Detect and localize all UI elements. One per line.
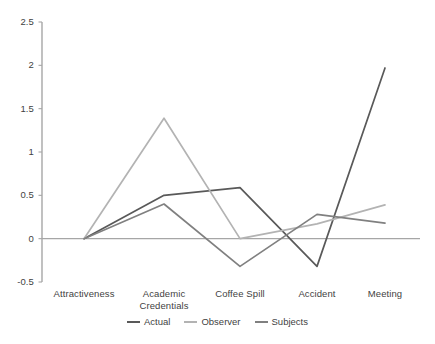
x-tick-label-4: Meeting [337,288,433,300]
y-tick-label-4: 1.5 [8,104,34,114]
legend-swatch-actual [127,321,140,323]
line-chart: -0.500.511.522.5 AttractivenessAcademic … [0,0,435,344]
legend-item-subjects[interactable]: Subjects [255,316,308,327]
series-line-actual [84,68,385,266]
y-tick-label-2: 0.5 [8,190,34,200]
series-line-observer [84,118,385,238]
legend-label: Actual [144,316,170,327]
y-tick-label-0: -0.5 [8,277,34,287]
legend-item-actual[interactable]: Actual [127,316,170,327]
y-tick-label-3: 1 [8,147,34,157]
axis-layer [39,22,421,282]
series-layer [84,68,385,266]
chart-legend: ActualObserverSubjects [0,316,435,327]
y-tick-label-5: 2 [8,60,34,70]
legend-swatch-observer [184,321,197,323]
legend-item-observer[interactable]: Observer [184,316,240,327]
y-tick-label-6: 2.5 [8,17,34,27]
y-tick-label-1: 0 [8,234,34,244]
legend-label: Observer [201,316,240,327]
legend-swatch-subjects [255,321,268,323]
legend-label: Subjects [272,316,308,327]
